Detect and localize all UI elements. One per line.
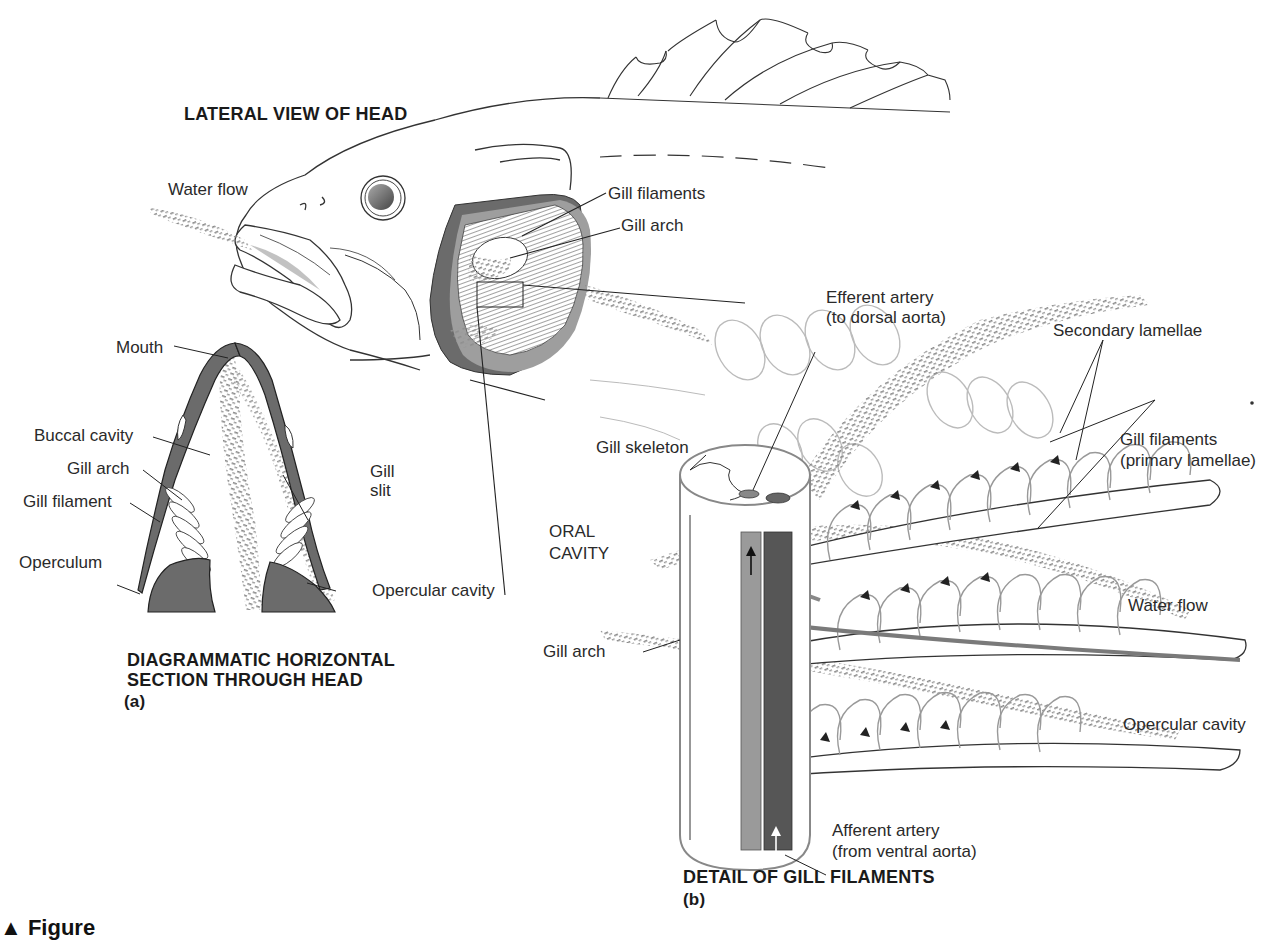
label-secondary-lamellae: Secondary lamellae — [1053, 321, 1202, 341]
gill-arch-cylinder — [680, 445, 810, 870]
efferent-artery-vessel — [741, 532, 761, 850]
label-gill-filaments-primary-line2: (primary lamellae) — [1120, 451, 1256, 471]
lateral-view-title: LATERAL VIEW OF HEAD — [184, 104, 407, 125]
afferent-artery-vessel — [764, 532, 792, 850]
label-gill-arch-detail: Gill arch — [543, 642, 605, 662]
section-title-line2: SECTION THROUGH HEAD — [127, 670, 363, 691]
label-oral-cavity-line2: CAVITY — [549, 544, 609, 564]
label-mouth: Mouth — [116, 338, 163, 358]
gill-chamber — [430, 194, 591, 375]
gill-detail — [590, 295, 1246, 875]
horizontal-section — [117, 343, 336, 612]
section-title-line1: DIAGRAMMATIC HORIZONTAL — [127, 650, 395, 671]
label-efferent-artery-line1: Efferent artery — [826, 288, 933, 308]
panel-a-letter: (a) — [124, 691, 145, 712]
stray-dot — [1250, 401, 1254, 405]
gill-skeleton-left-block — [148, 558, 215, 612]
label-gill-filaments-primary-line1: Gill filaments — [1120, 430, 1217, 450]
efferent-artery-opening — [739, 490, 759, 498]
dorsal-fin — [600, 19, 950, 112]
label-gill-slit-line2: slit — [370, 481, 391, 501]
label-operculum: Operculum — [19, 553, 102, 573]
figure-caption-marker: ▲ Figure — [0, 915, 95, 941]
label-gill-skeleton: Gill skeleton — [596, 438, 689, 458]
label-water-flow-lateral: Water flow — [168, 180, 248, 200]
label-gill-arch-section: Gill arch — [67, 459, 129, 479]
lateral-line — [600, 155, 830, 168]
label-gill-arch-lateral: Gill arch — [621, 216, 683, 236]
label-opercular-cavity-section: Opercular cavity — [372, 581, 495, 601]
label-oral-cavity-line1: ORAL — [549, 522, 595, 542]
label-afferent-artery-line1: Afferent artery — [832, 821, 939, 841]
label-gill-filaments-lateral: Gill filaments — [608, 184, 705, 204]
afferent-artery-opening — [766, 493, 790, 503]
label-opercular-cavity-detail: Opercular cavity — [1123, 715, 1246, 735]
label-afferent-artery-line2: (from ventral aorta) — [832, 842, 977, 862]
label-buccal-cavity: Buccal cavity — [34, 426, 133, 446]
fish-eye — [368, 184, 394, 210]
detail-title: DETAIL OF GILL FILAMENTS — [683, 867, 935, 888]
water-flow-lateral — [150, 208, 252, 250]
panel-b-letter: (b) — [683, 889, 705, 910]
label-efferent-artery-line2: (to dorsal aorta) — [826, 308, 946, 328]
label-gill-slit-line1: Gill — [370, 462, 395, 482]
label-gill-filament-section: Gill filament — [23, 492, 112, 512]
label-water-flow-detail: Water flow — [1128, 596, 1208, 616]
